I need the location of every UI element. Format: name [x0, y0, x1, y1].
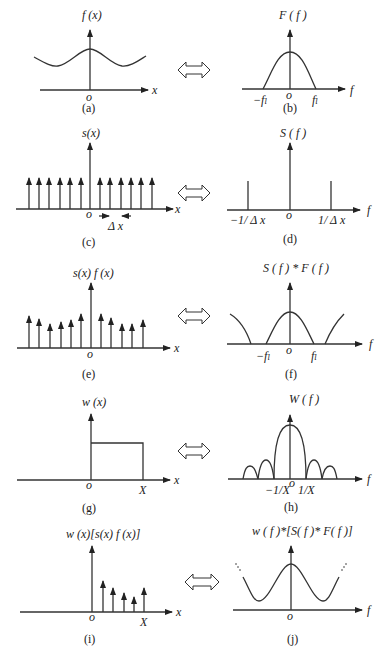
panel-b-xlabel: f: [350, 83, 355, 97]
panel-c-caption: (c): [82, 235, 95, 249]
panel-c-xlabel: x: [174, 202, 181, 216]
panel-j-xlabel: f: [367, 603, 372, 617]
panel-h-origin: o: [289, 476, 295, 490]
fourier-sampling-diagram: f (x) x o (a) F ( f ) f o −fₗ fₗ (b): [0, 0, 385, 657]
panel-b-ylabel: F ( f ): [278, 8, 307, 22]
panel-i-caption: (i): [84, 632, 95, 646]
panel-h-caption: (h): [284, 500, 298, 514]
panel-f-caption: (f): [285, 367, 297, 381]
panel-g-ylabel: w (x): [82, 395, 106, 409]
panel-h-tick-neg: −1/X: [265, 483, 290, 497]
panel-j: w ( f )*[S( f )* F( f )] f o (j): [233, 524, 372, 646]
panel-g-caption: (g): [82, 501, 96, 515]
panel-j-ylabel: w ( f )*[S( f )* F( f )]: [252, 524, 353, 538]
panel-f-origin: o: [286, 343, 292, 357]
panel-e-caption: (e): [82, 367, 95, 381]
panel-f-tick-neg: −fₗ: [256, 349, 270, 363]
panel-d-tick-neg: −1/ Δ x: [230, 213, 266, 227]
panel-g: w (x) x o X (g): [17, 395, 180, 515]
panel-e-ylabel: s(x) f (x): [73, 266, 114, 280]
panel-a-ylabel: f (x): [82, 8, 102, 22]
panel-i-xtick: X: [139, 615, 148, 629]
windowed-samples: [103, 581, 144, 612]
panel-i-ylabel: w (x)[s(x) f (x)]: [66, 527, 141, 541]
sampled-impulses: [29, 314, 143, 348]
panel-h-ylabel: W ( f ): [289, 392, 319, 406]
panel-g-xtick: X: [138, 483, 147, 497]
panel-d-caption: (d): [283, 232, 297, 246]
panel-d-tick-pos: 1/ Δ x: [318, 213, 346, 227]
panel-g-xlabel: x: [173, 473, 180, 487]
panel-i-origin: o: [89, 610, 95, 624]
panel-h-xlabel: f: [367, 472, 372, 486]
panel-i-xlabel: x: [175, 605, 182, 619]
panel-d-ylabel: S ( f ): [280, 126, 306, 140]
panel-d-xlabel: f: [367, 203, 372, 217]
panel-j-caption: (j): [287, 632, 298, 646]
panel-a-xlabel: x: [151, 83, 158, 97]
transform-arrow-ef: [178, 308, 210, 324]
panel-e-xlabel: x: [173, 341, 180, 355]
panel-c-ylabel: s(x): [82, 126, 100, 140]
panel-c-spacing: Δ x: [107, 219, 124, 233]
panel-f-tick-pos: fₗ: [311, 349, 317, 363]
panel-e: s(x) f (x) x o (e): [17, 266, 180, 381]
panel-i: w (x)[s(x) f (x)] x o X (i): [20, 527, 182, 646]
panel-d: S ( f ) f o −1/ Δ x 1/ Δ x (d): [227, 126, 372, 246]
panel-b-tick-neg: −fₗ: [253, 93, 267, 107]
panel-h: W ( f ) f o −1/X 1/X (h): [228, 392, 372, 514]
panel-c-origin: o: [86, 207, 92, 221]
panel-f: S ( f ) * F ( f ) f o −fₗ fₗ (f): [227, 261, 374, 381]
transform-arrow-ij: [185, 574, 219, 590]
panel-b-origin: o: [286, 88, 292, 102]
panel-a-caption: (a): [82, 101, 95, 115]
panel-f-xlabel: f: [369, 337, 374, 351]
transform-arrow-cd: [178, 185, 210, 201]
transform-arrow-ab: [178, 62, 210, 78]
transform-arrow-gh: [178, 443, 210, 459]
panel-e-origin: o: [87, 347, 93, 361]
panel-g-origin: o: [86, 478, 92, 492]
panel-f-ylabel: S ( f ) * F ( f ): [263, 261, 329, 275]
panel-b-caption: (b): [283, 101, 297, 115]
panel-c: s(x) x o Δ x (c): [16, 126, 181, 249]
panel-d-origin: o: [286, 208, 292, 222]
panel-b-tick-pos: fₗ: [312, 93, 318, 107]
panel-a: f (x) x o (a): [34, 8, 158, 115]
panel-j-origin: o: [287, 609, 293, 623]
panel-b: F ( f ) f o −fₗ fₗ (b): [242, 8, 355, 115]
panel-h-tick-pos: 1/X: [298, 483, 315, 497]
